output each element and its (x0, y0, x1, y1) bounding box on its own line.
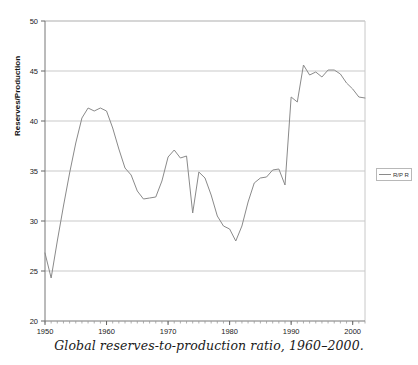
y-axis-tick-labels: 20253035404550 (30, 17, 38, 326)
legend-label-rpr: R/P R (393, 172, 409, 178)
y-axis-title: Reserves/Production (13, 16, 22, 136)
y-tick-label-45: 45 (30, 67, 38, 76)
x-tick-label-2000: 2000 (344, 327, 361, 336)
x-tick-label-1970: 1970 (160, 327, 177, 336)
x-tick-label-1990: 1990 (283, 327, 300, 336)
y-tick-label-35: 35 (30, 167, 38, 176)
x-tick-label-1980: 1980 (221, 327, 238, 336)
y-axis-ticks (41, 21, 45, 321)
y-tick-label-40: 40 (30, 117, 38, 126)
x-tick-label-1960: 1960 (98, 327, 115, 336)
x-tick-label-1950: 1950 (37, 327, 54, 336)
legend-line-swatch (379, 174, 391, 175)
reserves-production-line-chart: 20253035404550 195019601970198019902000 (0, 0, 418, 365)
y-tick-label-50: 50 (30, 17, 38, 26)
y-tick-label-25: 25 (30, 267, 38, 276)
plot-area: 20253035404550 195019601970198019902000 (30, 17, 365, 336)
chart-legend[interactable]: R/P R (376, 168, 412, 181)
figure-container: 20253035404550 195019601970198019902000 … (0, 0, 418, 365)
y-tick-label-30: 30 (30, 217, 38, 226)
figure-caption: Global reserves-to-production ratio, 196… (0, 338, 418, 353)
y-tick-label-20: 20 (30, 317, 38, 326)
x-axis-tick-labels: 195019601970198019902000 (37, 327, 361, 336)
